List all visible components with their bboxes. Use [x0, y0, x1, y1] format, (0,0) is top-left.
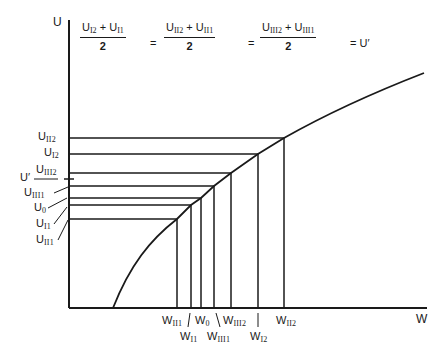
u-prime-label: U′ [20, 172, 30, 183]
utility-curve [113, 73, 424, 308]
diagram-canvas [0, 0, 447, 361]
u-label-II1: UII1 [36, 234, 54, 247]
equation-term-1: UI2 + UI1 2 [80, 22, 126, 52]
equals-sign-3: = U′ [350, 38, 370, 49]
u-label-leaders [48, 187, 68, 240]
u-label-I1: UI1 [36, 218, 51, 231]
equation-term-2: UII2 + UII1 2 [164, 22, 215, 52]
w-label-II2: WII2 [276, 315, 296, 328]
w-label-0: W0 [195, 315, 210, 328]
u-label-II2: UII2 [38, 131, 56, 144]
u-label-0: U0 [34, 202, 46, 215]
u-label-I2: UI2 [44, 147, 59, 160]
w-label-I1: WI1 [180, 331, 197, 344]
u-label-III1: UIII1 [24, 187, 45, 200]
u-level-lines [69, 138, 284, 219]
w-label-III1: WIII1 [207, 331, 230, 344]
w-label-I2: WI2 [250, 331, 267, 344]
w-drop-lines [177, 138, 284, 308]
equation-term-3: UIII2 + UIII1 2 [260, 22, 316, 52]
y-axis-label: U [53, 16, 62, 28]
equals-sign-1: = [150, 38, 156, 49]
x-axis-label: W [416, 313, 427, 325]
equals-sign-2: = [248, 38, 254, 49]
u-label-III2: UIII2 [36, 164, 57, 177]
w-label-II1: WII1 [162, 315, 182, 328]
w-label-III2: WIII2 [223, 315, 246, 328]
